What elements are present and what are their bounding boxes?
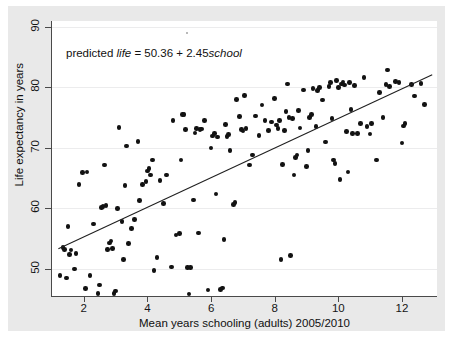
x-tick-label-10: 10 [332, 303, 345, 315]
x-axis-line [51, 296, 437, 297]
figure-canvas: 5060708090 24681012 Life expectancy in y… [0, 0, 453, 349]
x-tick-label-2: 2 [81, 303, 87, 315]
y-tick-mark-90 [45, 27, 51, 28]
y-tick-label-text: 70 [30, 140, 42, 153]
y-tick-mark-70 [45, 148, 51, 149]
regression-fit-line [52, 21, 437, 296]
x-tick-label-4: 4 [144, 303, 150, 315]
y-tick-mark-80 [45, 87, 51, 88]
y-tick-label-text: 50 [30, 261, 42, 274]
x-tick-label-8: 8 [272, 303, 278, 315]
y-tick-mark-60 [45, 208, 51, 209]
x-tick-label-6: 6 [208, 303, 214, 315]
y-tick-label-text: 80 [30, 79, 42, 92]
y-tick-mark-50 [45, 269, 51, 270]
y-tick-label-text: 60 [30, 200, 42, 213]
x-tick-label-12: 12 [396, 303, 409, 315]
x-axis-title: Mean years schooling (adults) 2005/2010 [52, 318, 437, 330]
y-tick-label-text: 90 [30, 19, 42, 32]
y-axis-title: Life expectancy in years [14, 63, 26, 186]
